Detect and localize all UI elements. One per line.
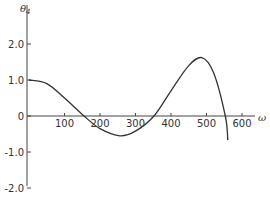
- x-tick-label: 400: [161, 118, 180, 129]
- y-axis-label: θ4: [20, 3, 31, 16]
- x-tick-label: 100: [55, 118, 74, 129]
- y-tick-label: 1.0: [8, 75, 24, 86]
- y-tick-label: -2.0: [4, 183, 24, 194]
- x-axis-label: ω: [258, 112, 266, 123]
- y-tick-label: 2.0: [8, 39, 24, 50]
- x-tick-label: 500: [197, 118, 216, 129]
- chart: 2.01.00-1.0-2.0100200300400500600 θ4 ω: [0, 0, 270, 198]
- x-tick-label: 600: [232, 118, 251, 129]
- y-tick-label: -1.0: [4, 147, 24, 158]
- y-tick-label: 0: [18, 111, 24, 122]
